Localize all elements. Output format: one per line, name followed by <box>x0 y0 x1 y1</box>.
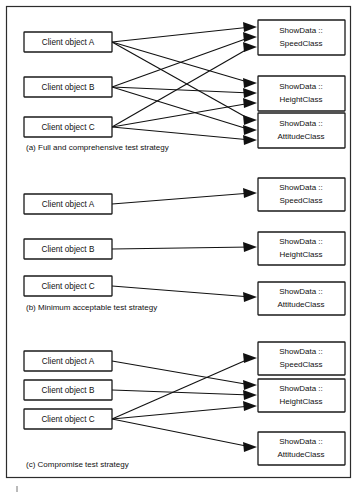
section-b-client-c-label: Client object C <box>41 282 94 291</box>
section-a-server-speed-line2: SpeedClass <box>279 39 322 48</box>
section-a-server-height-line2: HeightClass <box>279 95 322 104</box>
section-a-client-a-label: Client object A <box>42 38 95 47</box>
section-c-client-c-label: Client object C <box>41 415 94 424</box>
section-a-client-b-label: Client object B <box>42 83 95 92</box>
section-b-client-b-label: Client object B <box>42 245 95 254</box>
section-b-server-speed-line2: SpeedClass <box>279 196 322 205</box>
section-c-server-height-line2: HeightClass <box>279 397 322 406</box>
section-a-server-attitude-line1: ShowData :: <box>279 119 323 128</box>
section-a-caption: (a) Full and comprehensive test strategy <box>26 143 169 152</box>
section-b-server-height-line1: ShowData :: <box>279 237 323 246</box>
section-a-server-height-line1: ShowData :: <box>279 82 323 91</box>
section-a-server-attitude-line2: AttitudeClass <box>277 132 324 141</box>
section-c-server-attitude-line1: ShowData :: <box>279 437 323 446</box>
section-c-client-b-label: Client object B <box>42 386 95 395</box>
section-b-server-height-line2: HeightClass <box>279 250 322 259</box>
section-c-client-a-label: Client object A <box>42 357 95 366</box>
section-b-caption: (b) Minimum acceptable test strategy <box>26 303 157 312</box>
test-strategy-diagram: Client object A Client object B Client o… <box>0 0 357 495</box>
section-a-client-c-label: Client object C <box>41 123 94 132</box>
section-b-server-attitude-line2: AttitudeClass <box>277 300 324 309</box>
section-c-caption: (c) Compromise test strategy <box>26 460 129 469</box>
section-b-client-a-label: Client object A <box>42 200 95 209</box>
section-c-server-attitude-line2: AttitudeClass <box>277 450 324 459</box>
section-b-server-attitude-line1: ShowData :: <box>279 287 323 296</box>
section-c-server-height-line1: ShowData :: <box>279 384 323 393</box>
section-b-server-speed-line1: ShowData :: <box>279 183 323 192</box>
section-a-server-speed-line1: ShowData :: <box>279 26 323 35</box>
section-c-server-speed-line1: ShowData :: <box>279 347 323 356</box>
section-c-server-speed-line2: SpeedClass <box>279 360 322 369</box>
figure-root: Client object A Client object B Client o… <box>0 0 357 495</box>
